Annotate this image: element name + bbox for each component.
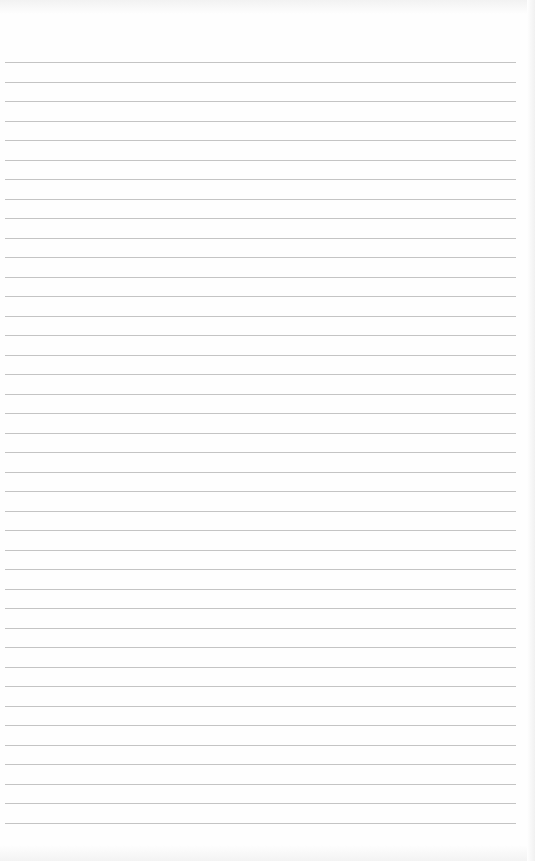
ruled-line: [5, 569, 516, 570]
ruled-line: [5, 238, 516, 239]
ruled-line: [5, 140, 516, 141]
ruled-line: [5, 764, 516, 765]
ruled-line: [5, 121, 516, 122]
lined-paper-sheet: [0, 0, 535, 861]
ruled-line: [5, 589, 516, 590]
ruled-line: [5, 257, 516, 258]
ruled-line: [5, 491, 516, 492]
ruled-line: [5, 101, 516, 102]
ruled-line: [5, 530, 516, 531]
ruled-line: [5, 686, 516, 687]
ruled-line: [5, 374, 516, 375]
ruled-line: [5, 160, 516, 161]
ruled-line: [5, 62, 516, 63]
ruled-line: [5, 218, 516, 219]
ruled-line: [5, 394, 516, 395]
ruled-line: [5, 277, 516, 278]
ruled-line: [5, 784, 516, 785]
ruled-line: [5, 628, 516, 629]
ruled-line: [5, 550, 516, 551]
ruled-line: [5, 452, 516, 453]
ruled-line: [5, 647, 516, 648]
ruled-line: [5, 433, 516, 434]
ruled-line: [5, 199, 516, 200]
ruled-line: [5, 608, 516, 609]
ruled-line: [5, 823, 516, 824]
ruled-line: [5, 725, 516, 726]
ruled-line: [5, 706, 516, 707]
ruled-line: [5, 803, 516, 804]
ruled-line: [5, 355, 516, 356]
ruled-line: [5, 82, 516, 83]
ruled-line: [5, 472, 516, 473]
ruled-line: [5, 335, 516, 336]
ruled-line: [5, 316, 516, 317]
ruled-line: [5, 413, 516, 414]
ruled-line: [5, 667, 516, 668]
paper-bottom-edge: [0, 845, 535, 861]
ruled-line: [5, 296, 516, 297]
ruled-line: [5, 179, 516, 180]
paper-top-edge: [0, 0, 535, 14]
ruled-line: [5, 511, 516, 512]
ruled-line: [5, 745, 516, 746]
paper-right-edge: [527, 0, 535, 861]
